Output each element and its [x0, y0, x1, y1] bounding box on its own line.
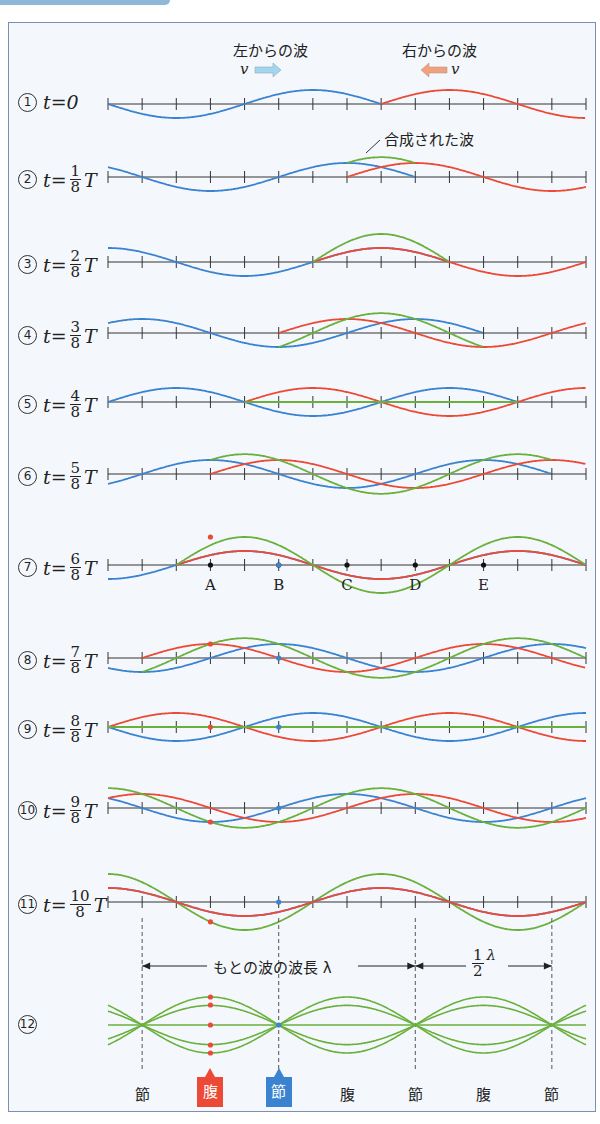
- half-wavelength-label: 12λ: [469, 946, 496, 979]
- node-marker: [276, 724, 281, 729]
- node-marker: [276, 805, 281, 810]
- dimension-arrowhead: [407, 963, 415, 970]
- wavelength-label: もとの波の波長 λ: [213, 956, 332, 977]
- point-a: [208, 562, 213, 567]
- antinode-highlight-tag: 腹: [197, 1077, 223, 1107]
- node-label: 節: [400, 1083, 430, 1104]
- row-number: 11: [18, 895, 37, 914]
- antinode-marker: [208, 641, 213, 646]
- row-number: 12: [18, 1015, 37, 1034]
- point-label: C: [341, 576, 352, 594]
- time-prefix: t=: [43, 325, 67, 347]
- row-number: 9: [18, 720, 37, 739]
- velocity-symbol-right: v: [451, 60, 459, 78]
- composite-wave-label: 合成された波: [384, 128, 474, 149]
- antinode-label: 腹: [469, 1083, 499, 1104]
- time-fraction: 108: [70, 889, 91, 920]
- point-label: B: [273, 576, 284, 594]
- period-symbol: T: [84, 557, 97, 579]
- row-label: 5t=48T: [18, 389, 97, 420]
- period-symbol: T: [84, 719, 97, 741]
- antinode-label: 腹: [332, 1083, 362, 1104]
- period-symbol: T: [94, 894, 107, 916]
- node-label: 節: [537, 1083, 567, 1104]
- left-wave-label: 左からの波: [233, 39, 308, 60]
- time-fraction: 18: [70, 164, 82, 195]
- row-number: 7: [18, 558, 37, 577]
- node-marker: [276, 562, 281, 567]
- antinode-marker: [208, 1050, 213, 1055]
- right-wave-label: 右からの波: [402, 39, 477, 60]
- row-label: 9t=88T: [18, 714, 97, 745]
- period-symbol: T: [84, 466, 97, 488]
- row-label: 6t=58T: [18, 461, 97, 492]
- period-symbol: T: [84, 394, 97, 416]
- time-fraction: 58: [70, 461, 82, 492]
- time-fraction: 38: [70, 320, 82, 351]
- arrow-left-icon: [421, 63, 447, 77]
- row-label: 11t=108T: [18, 889, 106, 920]
- row-label: 1t=0: [18, 91, 79, 113]
- row-number: 8: [18, 651, 37, 670]
- velocity-symbol-left: v: [240, 60, 248, 78]
- node-marker: [276, 899, 281, 904]
- antinode-marker: [208, 724, 213, 729]
- row-label: 2t=18T: [18, 164, 97, 195]
- time-fraction: 48: [70, 389, 82, 420]
- antinode-marker: [208, 1002, 213, 1007]
- row-label: 12: [18, 1015, 43, 1034]
- time-prefix: t=: [43, 557, 67, 579]
- time-fraction: 68: [70, 552, 82, 583]
- node-label: 節: [127, 1083, 157, 1104]
- row-label: 10t=98T: [18, 795, 97, 826]
- period-symbol: T: [84, 650, 97, 672]
- antinode-marker: [208, 919, 213, 924]
- time-prefix: t=: [43, 254, 67, 276]
- period-symbol: T: [84, 325, 97, 347]
- row-number: 1: [18, 93, 37, 112]
- time-prefix: t=: [43, 169, 67, 191]
- row-number: 6: [18, 467, 37, 486]
- row-number: 2: [18, 170, 37, 189]
- point-c: [344, 562, 349, 567]
- row-number: 10: [18, 801, 37, 820]
- time-label: t=0: [43, 91, 79, 113]
- composite-wave: [347, 157, 415, 163]
- dimension-arrowhead: [415, 963, 423, 970]
- point-label: A: [204, 576, 216, 594]
- period-symbol: T: [84, 800, 97, 822]
- node-marker: [276, 1022, 281, 1027]
- time-fraction: 28: [70, 249, 82, 280]
- time-prefix: t=: [43, 800, 67, 822]
- antinode-marker: [208, 994, 213, 999]
- row-label: 7t=68T: [18, 552, 97, 583]
- point-e: [481, 562, 486, 567]
- point-label: D: [409, 576, 421, 594]
- time-fraction: 88: [70, 714, 82, 745]
- time-fraction: 78: [70, 645, 82, 676]
- time-prefix: t=: [43, 394, 67, 416]
- period-symbol: T: [84, 254, 97, 276]
- point-label: E: [478, 576, 489, 594]
- node-highlight-tag: 節: [266, 1077, 292, 1107]
- composite-leader-line: [366, 140, 380, 153]
- antinode-marker: [208, 534, 213, 539]
- row-label: 3t=28T: [18, 249, 97, 280]
- time-prefix: t=: [43, 466, 67, 488]
- antinode-marker: [208, 1022, 213, 1027]
- time-prefix: t=: [43, 719, 67, 741]
- row-label: 8t=78T: [18, 645, 97, 676]
- antinode-marker: [208, 819, 213, 824]
- time-fraction: 98: [70, 795, 82, 826]
- antinode-marker: [208, 1042, 213, 1047]
- row-number: 4: [18, 326, 37, 345]
- point-d: [413, 562, 418, 567]
- node-marker: [276, 655, 281, 660]
- dimension-arrowhead: [544, 963, 552, 970]
- row-number: 5: [18, 395, 37, 414]
- row-number: 3: [18, 255, 37, 274]
- lambda-symbol: λ: [487, 946, 497, 964]
- time-prefix: t=: [43, 894, 67, 916]
- dimension-arrowhead: [142, 963, 150, 970]
- half-denominator: 2: [473, 964, 483, 979]
